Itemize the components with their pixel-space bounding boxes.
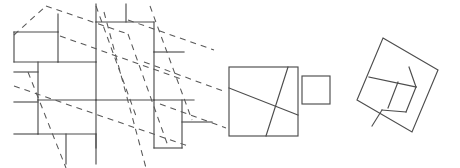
dashed-lattice-line — [144, 62, 226, 92]
pinwheel-cut — [388, 82, 398, 108]
square-tiling-panel — [14, 4, 226, 168]
pinwheel-cut — [406, 87, 416, 112]
dashed-lattice-line — [160, 104, 226, 128]
dashed-lattice-line — [14, 6, 46, 35]
figure-canvas — [0, 0, 460, 168]
pinwheel-cut — [372, 110, 382, 126]
pinwheel-cut — [382, 110, 406, 112]
dashed-lattice-line — [150, 6, 192, 120]
large-square-cut-line — [266, 67, 288, 136]
tilted-square-outline — [357, 38, 438, 132]
dashed-lattice-line — [104, 12, 146, 168]
pinwheel-cut — [409, 67, 416, 87]
two-squares-panel — [229, 67, 330, 136]
large-square-cut-line — [229, 88, 298, 115]
tilted-square-panel — [357, 38, 438, 132]
dashed-lattice-line — [60, 36, 184, 80]
dashed-lattice-line — [28, 72, 66, 168]
tiling-solid-edges — [14, 4, 212, 164]
dashed-lattice-line — [128, 34, 168, 146]
pinwheel-cut — [369, 77, 416, 87]
small-square-outline — [302, 76, 330, 104]
tiling-dashed-lattice — [14, 6, 226, 168]
dashed-lattice-line — [128, 20, 214, 50]
dashed-lattice-line — [14, 86, 188, 146]
pythagorean-figure — [0, 0, 460, 168]
